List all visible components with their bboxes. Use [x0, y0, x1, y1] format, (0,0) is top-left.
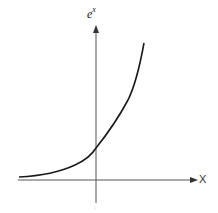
x-axis-label: X [199, 173, 206, 185]
exponential-chart [0, 0, 218, 213]
exp-curve [19, 43, 144, 177]
x-axis-arrow-icon [190, 177, 198, 183]
y-axis-arrow-icon [93, 25, 99, 33]
y-axis-label: ex [87, 6, 96, 22]
y-label-exponent: x [92, 5, 96, 14]
scan-mark [94, 207, 95, 208]
